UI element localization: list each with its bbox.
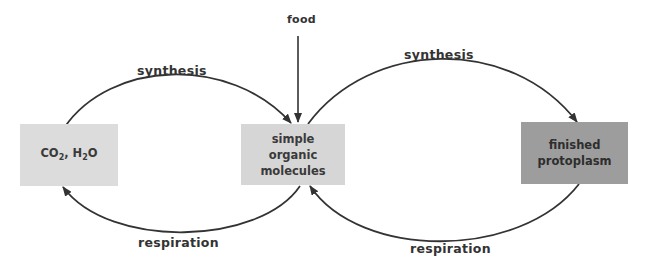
finished-line1: finished	[538, 137, 612, 153]
simple-line3: molecules	[260, 163, 325, 179]
finished-protoplasm-node: finished protoplasm	[521, 122, 628, 184]
co2-h2o-text: CO2, H2O	[40, 145, 97, 166]
respiration-left-arrow	[63, 186, 300, 232]
food-label: food	[287, 13, 316, 26]
respiration-right-arrow	[310, 184, 579, 241]
synthesis-left-label: synthesis	[137, 63, 207, 78]
simple-organic-molecules-node: simple organic molecules	[241, 124, 345, 185]
synthesis-right-arrow	[308, 59, 577, 124]
respiration-right-label: respiration	[410, 241, 491, 256]
simple-line2: organic	[260, 147, 325, 163]
synthesis-right-label: synthesis	[404, 47, 474, 62]
finished-line2: protoplasm	[538, 153, 612, 169]
co2-h2o-node: CO2, H2O	[20, 124, 118, 186]
respiration-left-label: respiration	[138, 235, 219, 250]
synthesis-left-arrow	[64, 74, 291, 128]
simple-line1: simple	[260, 131, 325, 147]
